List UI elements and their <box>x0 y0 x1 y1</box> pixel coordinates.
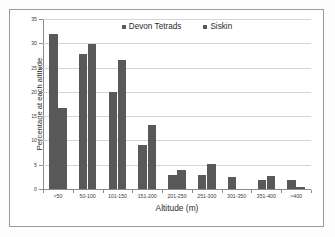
legend-entry-devon-tetrads: Devon Tetrads <box>122 22 182 31</box>
bar <box>49 34 58 189</box>
x-tick-mark <box>132 190 133 193</box>
x-tick-mark <box>73 190 74 193</box>
x-axis-title: Altitude (m) <box>43 203 311 213</box>
x-tick-label: 101-150 <box>108 193 127 199</box>
x-tick-mark <box>251 190 252 193</box>
y-tick-label: 15 <box>31 113 37 119</box>
x-tick-label: <50 <box>53 193 62 199</box>
y-tick-label: 30 <box>31 40 37 46</box>
bar <box>177 170 186 189</box>
x-tick-label: 301-350 <box>227 193 246 199</box>
y-tick-label: 0 <box>34 186 37 192</box>
legend-label: Siskin <box>210 22 232 31</box>
legend-entry-siskin: Siskin <box>203 22 232 31</box>
bar <box>79 54 88 189</box>
x-tick-mark <box>311 190 312 193</box>
bar <box>138 145 147 189</box>
plot-area <box>43 19 311 189</box>
bar <box>88 44 97 189</box>
y-tick-label: 5 <box>34 162 37 168</box>
bar <box>228 177 237 189</box>
bar <box>258 180 267 189</box>
x-tick-label: 201-250 <box>167 193 186 199</box>
chart-figure: Percentage at each altitude 051015202530… <box>0 0 335 237</box>
bar <box>148 125 157 189</box>
gridline <box>43 189 311 190</box>
bar <box>267 176 276 189</box>
x-tick-label: 351-400 <box>257 193 276 199</box>
bar <box>58 108 67 189</box>
x-tick-label: >400 <box>290 193 302 199</box>
x-tick-mark <box>162 190 163 193</box>
x-tick-mark <box>103 190 104 193</box>
chart-legend: Devon Tetrads Siskin <box>43 22 311 31</box>
bar <box>207 164 216 189</box>
bar <box>168 175 177 189</box>
bar <box>109 92 118 189</box>
legend-label: Devon Tetrads <box>129 22 182 31</box>
x-tick-mark <box>43 190 44 193</box>
legend-swatch-icon <box>122 25 126 29</box>
y-axis-title-container: Percentage at each altitude <box>10 19 32 189</box>
y-tick-label: 25 <box>31 65 37 71</box>
legend-swatch-icon <box>203 25 207 29</box>
bar <box>118 60 127 189</box>
x-tick-mark <box>222 190 223 193</box>
x-tick-label: 251-300 <box>197 193 216 199</box>
y-tick-label: 20 <box>31 89 37 95</box>
x-tick-label: 151-200 <box>138 193 157 199</box>
bar <box>296 187 305 189</box>
x-tick-label: 50-100 <box>80 193 96 199</box>
x-tick-mark <box>192 190 193 193</box>
bar <box>198 175 207 189</box>
x-tick-mark <box>281 190 282 193</box>
y-tick-label: 10 <box>31 137 37 143</box>
y-tick-label: 35 <box>31 16 37 22</box>
bar-series-container <box>43 19 311 189</box>
bar <box>287 180 296 189</box>
